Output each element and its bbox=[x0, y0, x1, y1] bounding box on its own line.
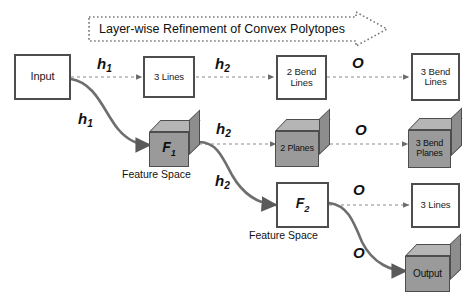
node-3-bend-lines-label: 3 Bend Lines bbox=[421, 67, 451, 88]
diagram-canvas: Layer-wise Refinement of Convex Polytope… bbox=[0, 0, 470, 297]
node-3-lines-top-label: 3 Lines bbox=[153, 72, 185, 82]
edge-label-h2-middle: h2 bbox=[216, 120, 231, 139]
node-3-bend-planes-cube[interactable]: 3 Bend Planes bbox=[408, 118, 464, 168]
node-f2[interactable]: F2 bbox=[276, 182, 329, 228]
node-2-planes-cube[interactable]: 2 Planes bbox=[275, 119, 331, 167]
node-3-lines-bottom-label: 3 Lines bbox=[420, 200, 452, 210]
connector-layer bbox=[0, 0, 470, 297]
node-input-label: Input bbox=[30, 71, 56, 83]
three-bend-planes-cube-side-face bbox=[451, 107, 462, 156]
edge-f1-to-f2-curve bbox=[199, 142, 276, 205]
node-3-lines-bottom[interactable]: 3 Lines bbox=[411, 183, 460, 228]
node-2-bend-lines-label: 2 Bend Lines bbox=[287, 67, 317, 88]
caption-feature-space-1: Feature Space bbox=[122, 168, 191, 180]
edge-label-h1-top: h1 bbox=[97, 55, 112, 74]
node-2-bend-lines[interactable]: 2 Bend Lines bbox=[276, 55, 327, 100]
output-cube-front-face: Output bbox=[405, 256, 450, 292]
edge-label-h1-diagonal: h1 bbox=[78, 110, 93, 129]
node-f2-label: F2 bbox=[296, 196, 310, 215]
edge-label-h2-top: h2 bbox=[215, 55, 230, 74]
node-output-cube[interactable]: Output bbox=[405, 244, 463, 292]
node-3-lines-top[interactable]: 3 Lines bbox=[143, 56, 195, 98]
node-output-label: Output bbox=[413, 269, 442, 280]
node-f1-label: F1 bbox=[162, 140, 175, 159]
f1-cube-front-face: F1 bbox=[149, 132, 189, 167]
node-3-bend-planes-label: 3 Bend Planes bbox=[416, 139, 443, 158]
edge-f2-to-output-curve bbox=[329, 203, 406, 271]
node-input[interactable]: Input bbox=[14, 54, 71, 100]
edge-label-o-output: O bbox=[353, 244, 365, 261]
edge-label-o-top: O bbox=[352, 54, 364, 71]
three-bend-planes-cube-front-face: 3 Bend Planes bbox=[408, 130, 451, 168]
edge-label-o-middle: O bbox=[355, 121, 367, 138]
node-2-planes-label: 2 Planes bbox=[280, 144, 313, 154]
caption-feature-space-2: Feature Space bbox=[249, 229, 318, 241]
two-planes-cube-front-face: 2 Planes bbox=[275, 131, 319, 167]
edge-label-h2-diagonal: h2 bbox=[215, 172, 230, 191]
node-3-bend-lines[interactable]: 3 Bend Lines bbox=[411, 53, 460, 101]
node-f1-cube[interactable]: F1 bbox=[149, 120, 199, 167]
edge-label-o-lower: O bbox=[353, 181, 365, 198]
